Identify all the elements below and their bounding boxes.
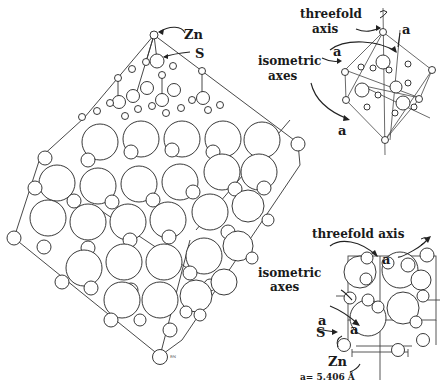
zn-label: Zn xyxy=(328,355,347,368)
s-label: S xyxy=(195,47,204,60)
corner-mark: ᴿᴺ xyxy=(170,355,176,361)
isometric-axes-label-line1: isometric xyxy=(258,267,321,279)
isometric-axes-label-line2: axes xyxy=(268,70,297,82)
isometric-axes-label-line1: isometric xyxy=(258,55,321,67)
axis-a-left-label: a xyxy=(333,45,341,58)
threefold-axis-label: threefold axis xyxy=(312,228,404,240)
s-label: S xyxy=(316,326,325,339)
axis-a-top-label: a xyxy=(382,253,390,266)
axis-a-top-label: a xyxy=(402,23,410,36)
lattice-constant-label: a= 5.406 Å xyxy=(300,373,355,382)
zn-label: Zn xyxy=(184,28,203,41)
threefold-axis-label-line1: threefold xyxy=(300,8,362,20)
axis-a-center-label: a xyxy=(350,323,358,336)
threefold-axis-label-line2: axis xyxy=(312,23,338,35)
isometric-axes-label-line2: axes xyxy=(270,281,299,293)
large-crystal-drawing xyxy=(0,0,444,389)
axis-a-bottom-label: a xyxy=(338,124,346,137)
zinc-blende-diagram: Zn S ᴿᴺ threefold axis isometric axes a … xyxy=(0,0,444,389)
